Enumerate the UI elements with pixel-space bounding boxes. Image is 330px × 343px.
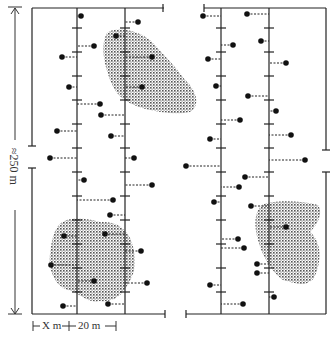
patch-right-bottom <box>255 201 320 284</box>
sample-point <box>144 280 150 286</box>
sample-point <box>138 248 144 254</box>
sample-point <box>81 177 87 183</box>
sample-point <box>59 54 65 60</box>
sample-point <box>213 83 219 89</box>
sample-point <box>283 224 289 230</box>
sample-point <box>60 303 66 309</box>
sample-point <box>244 11 250 17</box>
sample-point <box>149 54 155 60</box>
sample-point <box>230 42 236 48</box>
sample-point <box>237 117 243 123</box>
sample-point <box>207 136 213 142</box>
sample-point <box>91 278 97 284</box>
sample-point <box>241 245 247 251</box>
sample-point <box>302 157 308 163</box>
sample-point <box>91 43 97 49</box>
sample-point <box>107 212 113 218</box>
sample-point <box>271 294 277 300</box>
sample-point <box>245 93 251 99</box>
sample-point <box>254 261 260 267</box>
sample-point <box>288 132 294 138</box>
transect-diagram <box>0 0 330 343</box>
sample-point <box>61 233 67 239</box>
sample-point <box>108 133 114 139</box>
sample-point <box>97 101 103 107</box>
sample-point <box>273 108 279 114</box>
sample-point <box>48 262 54 268</box>
patch-left-top <box>103 30 196 114</box>
vertical-scale-label-wrap: ≈250 m <box>3 148 23 208</box>
sample-point <box>110 197 116 203</box>
sample-point <box>131 155 137 161</box>
x-segment-label: X m <box>42 319 61 331</box>
sample-point <box>205 56 211 62</box>
sample-point <box>211 199 217 205</box>
sample-point <box>47 155 53 161</box>
sample-point <box>113 33 119 39</box>
vertical-scale-label: ≈250 m <box>6 148 21 185</box>
sample-point <box>248 203 254 209</box>
sample-point <box>242 174 248 180</box>
sample-point <box>139 84 145 90</box>
sample-point <box>283 60 289 66</box>
sample-point <box>66 84 72 90</box>
sample-point <box>54 128 60 134</box>
sample-point <box>207 282 213 288</box>
patch-left-bottom <box>50 219 135 302</box>
sample-point <box>254 270 260 276</box>
sample-point <box>102 231 108 237</box>
sample-point <box>240 301 246 307</box>
sample-point <box>200 13 206 19</box>
sample-point <box>235 236 241 242</box>
sample-point <box>149 182 155 188</box>
sample-point <box>183 163 189 169</box>
sample-point <box>78 13 84 19</box>
sample-point <box>135 19 141 25</box>
sample-point <box>236 184 242 190</box>
sample-point <box>98 112 104 118</box>
sample-point <box>258 38 264 44</box>
sample-point <box>105 301 111 307</box>
twenty-m-segment-label: 20 m <box>78 319 100 331</box>
